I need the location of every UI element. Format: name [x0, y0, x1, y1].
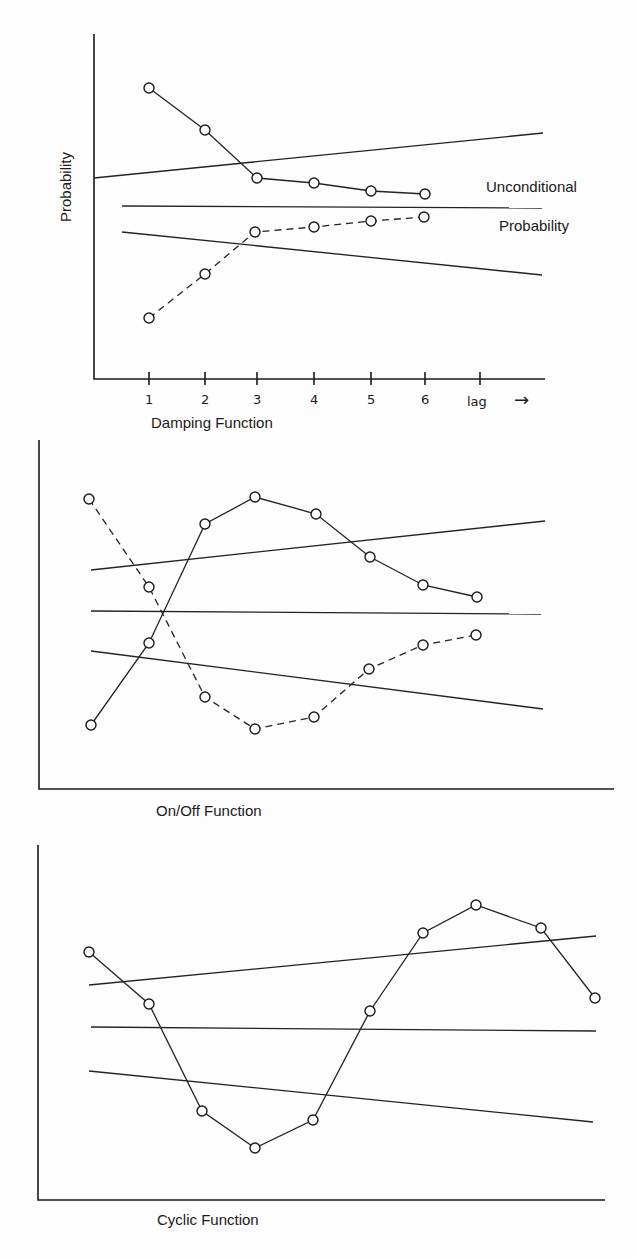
data-point-marker — [472, 592, 482, 602]
tick-label-4: 4 — [310, 392, 318, 407]
data-point-marker — [252, 173, 262, 183]
tick-label-6: 6 — [421, 392, 429, 407]
lower-bound-line — [122, 232, 542, 275]
data-point-marker — [471, 630, 481, 640]
lower-bound-line — [89, 1071, 593, 1122]
lower-bound-line — [91, 651, 543, 709]
data-point-marker — [250, 492, 260, 502]
data-point-marker — [418, 928, 428, 938]
data-point-marker — [250, 227, 260, 237]
tick-label-2: 2 — [201, 392, 209, 407]
data-point-marker — [309, 712, 319, 722]
data-point-marker — [86, 720, 96, 730]
data-point-marker — [197, 1106, 207, 1116]
damping-title: Damping Function — [151, 414, 273, 431]
data-point-marker — [366, 186, 376, 196]
figure: Damping Function Probability Uncondition… — [0, 0, 636, 1259]
data-point-marker — [419, 212, 429, 222]
unconditional-label: Unconditional — [486, 178, 577, 195]
data-point-marker — [366, 216, 376, 226]
damping-function-chart — [94, 34, 545, 385]
data-point-marker — [200, 692, 210, 702]
cyclic-title: Cyclic Function — [157, 1211, 259, 1228]
on-off-dashed-series-line — [89, 499, 476, 729]
data-point-marker — [84, 494, 94, 504]
probability-axis-label: Probability — [57, 151, 74, 222]
above-series-line — [149, 88, 425, 194]
upper-bound-line — [89, 936, 596, 985]
data-point-marker — [311, 509, 321, 519]
data-point-marker — [309, 222, 319, 232]
data-point-marker — [365, 552, 375, 562]
unconditional-probability-line — [91, 611, 541, 614]
lag-label: lag — [467, 394, 487, 409]
data-point-marker — [536, 923, 546, 933]
data-point-marker — [308, 1115, 318, 1125]
data-point-marker — [200, 519, 210, 529]
cyclic-series-line — [89, 905, 595, 1148]
tick-label-1: 1 — [145, 392, 153, 407]
data-point-marker — [144, 638, 154, 648]
data-point-marker — [365, 1006, 375, 1016]
data-point-marker — [144, 313, 154, 323]
data-point-marker — [471, 900, 481, 910]
data-point-marker — [364, 664, 374, 674]
cyclic-function-chart — [38, 845, 605, 1200]
on-off-title: On/Off Function — [156, 802, 262, 819]
on-off-function-chart — [39, 440, 614, 789]
data-point-marker — [200, 125, 210, 135]
data-point-marker — [418, 640, 428, 650]
below-series-line — [149, 217, 424, 318]
upper-bound-line — [94, 133, 543, 178]
unconditional-probability-line — [91, 1027, 596, 1031]
upper-bound-line — [91, 521, 545, 570]
data-point-marker — [309, 178, 319, 188]
data-point-marker — [250, 1143, 260, 1153]
data-point-marker — [418, 580, 428, 590]
data-point-marker — [250, 724, 260, 734]
data-point-marker — [144, 83, 154, 93]
data-point-marker — [590, 993, 600, 1003]
data-point-marker — [144, 582, 154, 592]
lag-arrow-icon: → — [514, 389, 529, 410]
tick-label-3: 3 — [253, 392, 261, 407]
data-point-marker — [84, 947, 94, 957]
data-point-marker — [200, 269, 210, 279]
data-point-marker — [420, 189, 430, 199]
axis-lines — [38, 845, 605, 1200]
probability-label: Probability — [499, 217, 570, 234]
data-point-marker — [144, 999, 154, 1009]
unconditional-probability-line — [122, 206, 542, 208]
tick-label-5: 5 — [367, 392, 375, 407]
